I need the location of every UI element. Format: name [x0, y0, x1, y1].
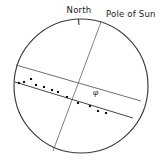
data-point	[105, 112, 107, 114]
data-point	[30, 78, 32, 80]
data-point	[89, 105, 91, 107]
data-point	[18, 82, 20, 84]
data-point	[57, 91, 59, 93]
pole-of-sun-axis-line	[53, 22, 101, 151]
data-point	[77, 102, 79, 104]
pole-of-sun-label: Pole of Sun	[106, 9, 156, 19]
data-point	[35, 84, 37, 86]
data-point	[66, 96, 68, 98]
north-label: North	[67, 5, 92, 15]
data-point	[43, 86, 45, 88]
angle-symbol-label: φ	[93, 88, 99, 97]
data-point	[97, 110, 99, 112]
solar-disk-diagram: North Pole of Sun φ	[0, 0, 163, 163]
central-meridian-chord	[16, 65, 141, 101]
data-point	[23, 81, 25, 83]
diagram-canvas: North Pole of Sun φ	[0, 0, 163, 163]
sunspot-fit-line	[15, 82, 133, 118]
solar-disk-outline	[14, 19, 148, 153]
data-point	[51, 89, 53, 91]
